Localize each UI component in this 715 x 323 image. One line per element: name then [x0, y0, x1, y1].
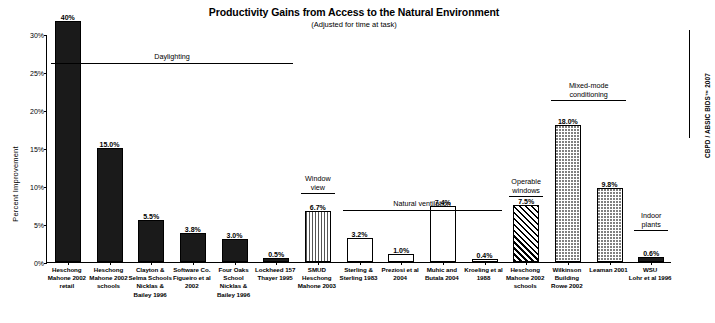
group-annotation-rule	[634, 230, 668, 231]
group-annotation-label: Natural ventilation	[343, 200, 502, 209]
bar-heschong-mahone-2002-schools-ow: 7.5%	[513, 205, 539, 262]
group-annotation-label: Operable windows	[509, 178, 543, 195]
x-tick-mark	[360, 262, 361, 265]
bar-smud-heschong-mahone-2003: 6.7%	[305, 211, 331, 262]
x-tick-mark	[318, 262, 319, 265]
y-tick-label-5%: 5%	[18, 222, 44, 229]
y-tick-label-10%: 10%	[18, 184, 44, 191]
group-annotation-mixed-mode: Mixed-mode conditioning	[551, 82, 627, 101]
group-annotation-indoor-plants: Indoor plants	[634, 212, 668, 231]
bar-sterling-sterling-1983: 3.2%	[347, 238, 373, 262]
group-annotation-rule	[301, 193, 335, 194]
source-note-divider	[689, 30, 690, 138]
group-annotation-rule	[51, 63, 293, 64]
plot-area: Percent Improvement 0%5%10%15%20%25%30% …	[46, 35, 671, 263]
y-tick-mark	[44, 35, 47, 36]
bar-leaman-2001: 9.8%	[597, 188, 623, 262]
group-annotation-window-view: Window view	[301, 175, 335, 194]
x-tick-mark	[276, 262, 277, 265]
chart-title: Productivity Gains from Access to the Na…	[0, 6, 708, 18]
x-category-label-line: Building	[536, 274, 598, 282]
x-category-label-line: Nicklas &	[203, 282, 265, 290]
group-annotation-operable-windows: Operable windows	[509, 178, 543, 197]
x-category-label-line: Bailey 1996	[119, 291, 181, 299]
x-category-label-line: Lohr et al 1996	[619, 274, 681, 282]
bar-value-label: 9.8%	[602, 181, 618, 188]
bar-kroeling-et-al-1988: 0.4%	[472, 259, 498, 262]
y-tick-label-25%: 25%	[18, 70, 44, 77]
group-annotation-rule	[551, 100, 627, 101]
x-tick-mark	[110, 262, 111, 265]
x-category-label-line: WSU	[619, 266, 681, 274]
bar-software-co-figueiro: 3.8%	[180, 233, 206, 262]
bar-lockheed-157-thayer: 0.5%	[263, 258, 289, 262]
y-tick-mark	[44, 111, 47, 112]
bar-heschong-mahone-2002-schools: 15.0%	[97, 148, 123, 262]
bar-wsu-lohr-et-al-1996: 0.6%	[638, 257, 664, 262]
x-tick-mark	[485, 262, 486, 265]
group-annotation-rule	[343, 210, 502, 211]
bar-value-label: 3.2%	[352, 231, 368, 238]
group-annotation-label: Daylighting	[51, 53, 293, 62]
x-tick-mark	[568, 262, 569, 265]
x-tick-mark	[235, 262, 236, 265]
bar-value-label: 6.7%	[310, 204, 326, 211]
bar-value-label: 0.4%	[477, 252, 493, 259]
y-tick-label-30%: 30%	[18, 32, 44, 39]
bar-muhic-and-butala-2004: 7.4%	[430, 206, 456, 262]
group-annotation-natural-ventilation: Natural ventilation	[343, 200, 502, 211]
bar-value-label: 18.0%	[558, 118, 578, 125]
y-tick-label-20%: 20%	[18, 108, 44, 115]
y-tick-mark	[44, 73, 47, 74]
y-tick-mark	[44, 149, 47, 150]
x-tick-mark	[193, 262, 194, 265]
x-tick-mark	[526, 262, 527, 265]
x-category-label-line: Rowe 2002	[536, 282, 598, 290]
group-annotation-label: Window view	[301, 175, 335, 192]
x-tick-mark	[610, 262, 611, 265]
bar-value-label: 0.5%	[268, 251, 284, 258]
bar-value-label: 0.6%	[643, 250, 659, 257]
x-tick-mark	[68, 262, 69, 265]
bar-clayton-selma-schools: 5.5%	[138, 220, 164, 262]
bar-value-label: 15.0%	[100, 141, 120, 148]
y-tick-mark	[44, 187, 47, 188]
bar-value-label: 3.0%	[227, 232, 243, 239]
y-tick-mark	[44, 263, 47, 264]
bar-value-label: 40%	[61, 14, 75, 21]
x-tick-mark	[401, 262, 402, 265]
bar-wilkinson-building-rowe-2002: 18.0%	[555, 125, 581, 262]
bar-value-label: 1.0%	[393, 247, 409, 254]
x-category-label-line: Mahone 2003	[286, 282, 348, 290]
bar-value-label: 5.5%	[143, 213, 159, 220]
chart-subtitle: (Adjusted for time at task)	[0, 20, 708, 29]
group-annotation-daylighting: Daylighting	[51, 53, 293, 64]
bar-value-label: 7.5%	[518, 198, 534, 205]
bar-preziosi-et-al-2004: 1.0%	[388, 254, 414, 262]
bar-value-label: 3.8%	[185, 226, 201, 233]
y-tick-mark	[44, 225, 47, 226]
bar-four-oaks-school: 3.0%	[222, 239, 248, 262]
x-category-label-line: Bailey 1996	[203, 291, 265, 299]
x-tick-mark	[651, 262, 652, 265]
x-category-label-wsu-lohr-et-al-1996: WSULohr et al 1996	[619, 266, 681, 282]
x-tick-mark	[443, 262, 444, 265]
y-tick-label-15%: 15%	[18, 146, 44, 153]
group-annotation-rule	[509, 196, 543, 197]
source-note: CBPD / ABSIC BIDS™ 2007	[704, 28, 715, 158]
x-tick-mark	[151, 262, 152, 265]
group-annotation-label: Mixed-mode conditioning	[551, 82, 627, 99]
group-annotation-label: Indoor plants	[634, 212, 668, 229]
